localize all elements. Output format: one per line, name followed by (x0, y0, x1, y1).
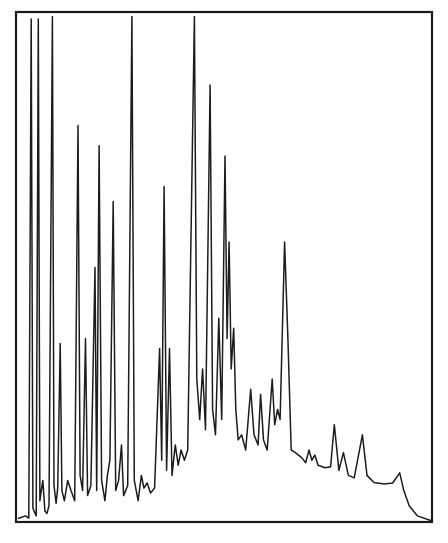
signal-trace (18, 17, 432, 522)
plot-canvas (0, 0, 448, 543)
chromatogram-chart (0, 0, 448, 543)
